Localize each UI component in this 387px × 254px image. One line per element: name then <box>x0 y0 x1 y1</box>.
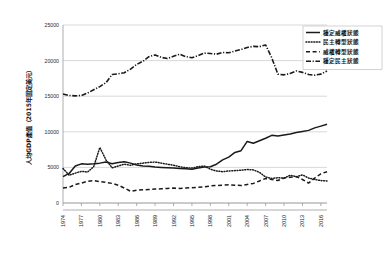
data-series-group <box>63 45 327 191</box>
x-tick-label: 2016 <box>318 215 324 227</box>
x-tick-label: 1998 <box>207 215 213 227</box>
x-tick-label: 1983 <box>115 215 121 227</box>
x-axis-tick-labels: 1974197719801983198619891992199519982001… <box>60 215 324 227</box>
x-tick-label: 2004 <box>244 215 250 227</box>
x-tick-label: 1980 <box>97 215 103 227</box>
legend-label: 民主轉型狀態 <box>323 38 359 46</box>
x-tick-label: 2010 <box>281 215 287 227</box>
y-tick-label: 10000 <box>45 129 60 135</box>
y-axis-title: 人均GDP產值（2015年固定美元） <box>25 67 33 165</box>
series-line-dashed <box>63 172 327 192</box>
x-tick-label: 1974 <box>60 215 66 227</box>
chart-container: 0500010000150002000025000 19741977198019… <box>0 0 387 254</box>
x-tick-label: 2013 <box>299 215 305 227</box>
x-tick-label: 1995 <box>189 215 195 227</box>
x-tick-label: 2001 <box>226 215 232 227</box>
line-chart: 0500010000150002000025000 19741977198019… <box>0 0 387 254</box>
legend-label: 穩定威權狀態 <box>322 29 359 37</box>
chart-legend: 穩定威權狀態民主轉型狀態威權轉型狀態穩定民主狀態 <box>303 26 382 69</box>
x-tick-label: 1989 <box>152 215 158 227</box>
x-tick-label: 1977 <box>78 215 84 227</box>
y-tick-label: 20000 <box>45 58 60 64</box>
legend-label: 威權轉型狀態 <box>323 48 359 56</box>
y-tick-label: 0 <box>56 200 59 206</box>
y-tick-label: 25000 <box>45 22 60 28</box>
series-line-solid <box>63 124 327 176</box>
y-axis-tick-labels: 0500010000150002000025000 <box>45 22 60 206</box>
legend-label: 穩定民主狀態 <box>322 57 359 65</box>
series-line-dashdot <box>63 45 327 96</box>
y-tick-label: 15000 <box>45 93 60 99</box>
series-line-dotted <box>63 147 327 180</box>
x-tick-label: 1986 <box>134 215 140 227</box>
y-tick-label: 5000 <box>47 164 59 170</box>
x-tick-label: 2007 <box>263 215 269 227</box>
x-tick-label: 1992 <box>171 215 177 227</box>
